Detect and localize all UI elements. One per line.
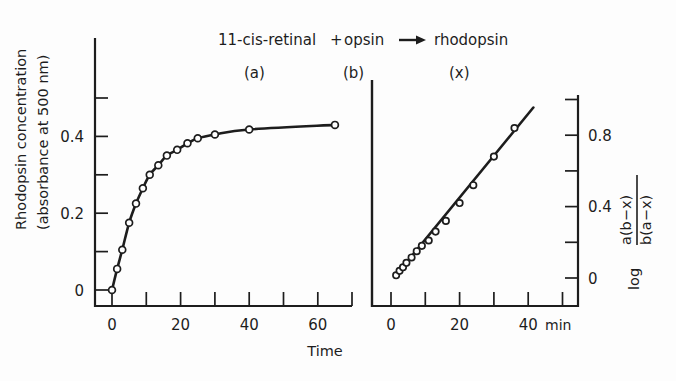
kinetics-figure: 11-cis-retinal + opsin rhodopsin (a) (b)… xyxy=(0,0,676,381)
data-point-marker xyxy=(146,171,153,178)
right-ytick-0: 0 xyxy=(588,270,598,288)
right-xtick-40: 40 xyxy=(519,316,538,334)
x-axis-title: Time xyxy=(306,343,343,359)
species-label-x: (x) xyxy=(449,64,470,82)
right-ylabel-log: log xyxy=(626,268,642,290)
right-ylabel-denominator: b(a−x) xyxy=(638,195,654,245)
data-point-marker xyxy=(491,153,497,159)
data-point-marker xyxy=(133,200,140,207)
data-point-marker xyxy=(332,121,339,128)
data-point-marker xyxy=(194,135,201,142)
data-point-marker xyxy=(414,248,420,254)
left-y-ticks xyxy=(95,98,108,290)
left-xtick-20: 20 xyxy=(171,316,190,334)
left-xtick-40: 40 xyxy=(240,316,259,334)
reaction-plus-sign: + xyxy=(330,31,343,49)
left-ylabel-line1: Rhodopsin concentration xyxy=(13,49,29,230)
data-point-marker xyxy=(426,237,432,243)
data-point-marker xyxy=(511,125,517,131)
data-point-marker xyxy=(470,182,476,188)
right-ylabel-group: log a(b−x) b(a−x) xyxy=(618,175,654,290)
data-point-marker xyxy=(119,246,126,253)
data-point-marker xyxy=(139,185,146,192)
right-xtick-0: 0 xyxy=(386,316,396,334)
right-y-ticks xyxy=(565,100,578,279)
data-point-marker xyxy=(456,200,462,206)
left-data-curve xyxy=(112,125,335,290)
left-ytick-0: 0 xyxy=(74,282,84,300)
reaction-reactant-a: 11-cis-retinal xyxy=(218,31,316,49)
data-point-marker xyxy=(114,265,121,272)
right-xtick-20: 20 xyxy=(450,316,469,334)
data-point-marker xyxy=(109,287,116,294)
x-axis-unit-label: min xyxy=(545,317,571,333)
data-point-marker xyxy=(246,126,253,133)
data-point-marker xyxy=(212,131,219,138)
data-point-marker xyxy=(419,243,425,249)
data-point-marker xyxy=(126,219,133,226)
reaction-reactant-b: opsin xyxy=(344,31,384,49)
right-ytick-04: 0.4 xyxy=(588,198,612,216)
left-data-markers xyxy=(109,121,339,293)
left-xtick-60: 60 xyxy=(308,316,327,334)
right-ytick-08: 0.8 xyxy=(588,127,612,145)
left-panel: Rhodopsin concentration (absorbance at 5… xyxy=(13,38,352,334)
right-panel: 0 0.4 0.8 0 20 40 min log a(b−x) b(a−x) xyxy=(372,80,654,334)
reaction-scheme: 11-cis-retinal + opsin rhodopsin (a) (b)… xyxy=(218,31,508,82)
data-point-marker xyxy=(174,146,181,153)
data-point-marker xyxy=(163,152,170,159)
data-point-marker xyxy=(403,260,409,266)
right-ylabel-numerator: a(b−x) xyxy=(618,195,634,245)
data-point-marker xyxy=(408,254,414,260)
reaction-arrow-icon xyxy=(399,35,426,44)
species-label-b: (b) xyxy=(343,64,364,82)
figure-container: 11-cis-retinal + opsin rhodopsin (a) (b)… xyxy=(0,0,676,381)
reaction-product: rhodopsin xyxy=(434,31,508,49)
left-ylabel-line2: (absorbance at 500 nm) xyxy=(35,55,51,230)
left-ytick-04: 0.4 xyxy=(60,128,84,146)
data-point-marker xyxy=(155,162,162,169)
left-x-ticks xyxy=(112,292,352,306)
species-label-a: (a) xyxy=(244,64,265,82)
left-ytick-02: 0.2 xyxy=(60,205,84,223)
left-xtick-0: 0 xyxy=(107,316,117,334)
data-point-marker xyxy=(443,218,449,224)
right-x-ticks xyxy=(391,292,563,306)
data-point-marker xyxy=(184,140,191,147)
data-point-marker xyxy=(432,228,438,234)
